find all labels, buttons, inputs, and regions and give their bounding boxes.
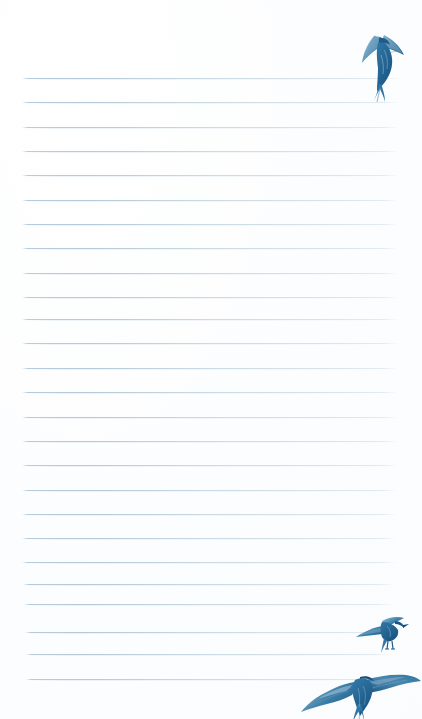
ruled-line [22, 490, 397, 491]
ruled-line [22, 562, 396, 563]
ruled-line [22, 151, 399, 152]
ruled-line [22, 273, 398, 274]
ruled-line [23, 584, 394, 585]
ruled-line [26, 654, 388, 655]
ruled-line [22, 224, 398, 225]
ruled-line [22, 175, 398, 176]
ruled-line [22, 127, 398, 128]
swallow-perched-icon [352, 612, 412, 656]
ruled-line [22, 319, 398, 320]
ruled-line [22, 343, 398, 344]
ruled-line [22, 392, 398, 393]
swallow-diving-icon [340, 22, 418, 102]
ruled-line [22, 538, 396, 539]
ruled-line [22, 465, 397, 466]
ruled-line [25, 632, 390, 633]
ruled-line [22, 297, 398, 298]
notepaper-page [0, 0, 422, 719]
ruled-line [22, 200, 398, 201]
ruled-line [22, 514, 397, 515]
swallow-soaring-icon [296, 664, 422, 719]
ruled-line [22, 441, 398, 442]
ruled-line [24, 604, 392, 605]
ruled-line [22, 417, 398, 418]
ruled-line [22, 248, 398, 249]
ruled-line [22, 368, 398, 369]
ruled-line [22, 102, 398, 103]
